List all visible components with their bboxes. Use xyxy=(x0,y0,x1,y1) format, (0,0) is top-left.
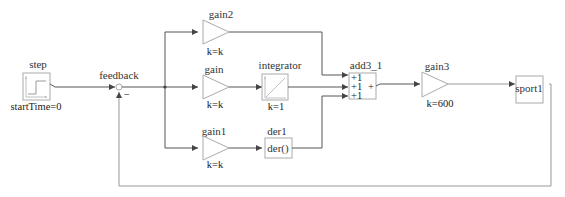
gain-label: gain xyxy=(205,63,224,75)
step-block[interactable]: step startTime=0 xyxy=(10,58,61,112)
gain3-param: k=600 xyxy=(427,98,454,109)
gain2-param: k=k xyxy=(207,46,224,57)
der1-body: der() xyxy=(267,142,289,155)
wire-step-feedback xyxy=(50,84,115,87)
integrator-block[interactable]: integrator k=1 xyxy=(259,59,302,112)
step-param: startTime=0 xyxy=(10,101,61,112)
wire-der1-add3 xyxy=(292,96,348,148)
gain1-triangle[interactable] xyxy=(203,136,229,160)
gain2-label: gain2 xyxy=(209,8,233,20)
feedback-label: feedback xyxy=(99,69,139,81)
gain2-block[interactable]: gain2 k=k xyxy=(203,8,233,57)
add3-1-output-sign: + xyxy=(368,81,374,92)
feedback-minus-sign: − xyxy=(124,89,130,100)
wire-to-gain2 xyxy=(165,32,198,87)
integrator-box[interactable] xyxy=(262,74,288,100)
add3-1-block[interactable]: add3_1 +1 +1 +1 + xyxy=(349,59,382,101)
wire-to-gain1 xyxy=(165,87,198,148)
der1-label: der1 xyxy=(267,125,287,137)
gain-param: k=k xyxy=(207,99,224,110)
add3-1-input-3: +1 xyxy=(351,90,362,101)
gain2-triangle[interactable] xyxy=(203,20,229,44)
sport1-block[interactable]: sport1 xyxy=(515,76,543,103)
integrator-label: integrator xyxy=(259,59,302,71)
gain-block[interactable]: gain k=k xyxy=(203,63,229,110)
der1-block[interactable]: der1 der() xyxy=(265,125,292,158)
gain3-triangle[interactable] xyxy=(422,72,448,97)
gain-triangle[interactable] xyxy=(203,75,229,99)
wire-feedback-loop xyxy=(119,84,551,186)
wire-add3-gain3 xyxy=(376,84,420,86)
gain1-param: k=k xyxy=(207,159,224,170)
gain1-label: gain1 xyxy=(202,125,226,137)
block-diagram-canvas: step startTime=0 feedback − gain2 k=k ga… xyxy=(0,0,565,197)
feedback-summing-junction[interactable] xyxy=(116,84,122,90)
add3-1-label: add3_1 xyxy=(350,59,382,71)
integrator-param: k=1 xyxy=(268,101,284,112)
sport1-label: sport1 xyxy=(515,82,543,94)
gain1-block[interactable]: gain1 k=k xyxy=(202,125,229,170)
step-label: step xyxy=(29,58,47,70)
gain3-label: gain3 xyxy=(425,60,450,72)
